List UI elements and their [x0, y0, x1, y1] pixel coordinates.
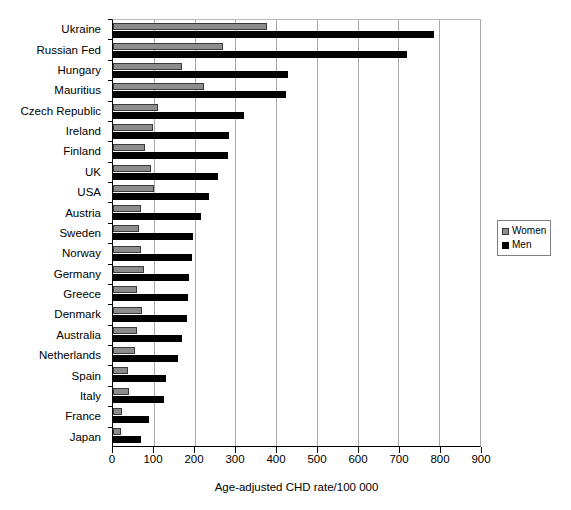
category-tick [106, 427, 112, 447]
bar-row [113, 263, 480, 283]
bar-row [113, 182, 480, 202]
category-tick [106, 39, 112, 59]
bar-men [113, 436, 141, 443]
category-tick [106, 243, 112, 263]
bar-row [113, 101, 480, 121]
bar-women [113, 347, 135, 354]
bar-women [113, 165, 151, 172]
bar-women [113, 367, 128, 374]
category-label: Russian Fed [0, 39, 106, 59]
category-tick [106, 162, 112, 182]
bar-men [113, 31, 434, 38]
bar-men [113, 91, 286, 98]
bar-row [113, 61, 480, 81]
bar-men [113, 51, 407, 58]
legend-label-women: Women [512, 225, 546, 237]
category-label: Greece [0, 284, 106, 304]
bar-row [113, 365, 480, 385]
bar-row [113, 385, 480, 405]
category-label: Mauritius [0, 80, 106, 100]
bar-row [113, 243, 480, 263]
category-tick [106, 345, 112, 365]
category-label: Finland [0, 141, 106, 161]
bar-men [113, 335, 182, 342]
bar-women [113, 144, 145, 151]
category-label: Ukraine [0, 19, 106, 39]
category-label: Ireland [0, 121, 106, 141]
x-tick-label: 800 [430, 452, 449, 466]
category-tick [106, 406, 112, 426]
bar-women [113, 225, 139, 232]
bar-women [113, 307, 142, 314]
category-tick [106, 386, 112, 406]
bar-men [113, 396, 164, 403]
bar-men [113, 274, 189, 281]
men-swatch-icon [502, 242, 509, 249]
bar-women [113, 428, 121, 435]
category-axis-labels: UkraineRussian FedHungaryMauritiusCzech … [0, 19, 106, 447]
category-label: Hungary [0, 60, 106, 80]
bar-women [113, 266, 144, 273]
bar-women [113, 388, 129, 395]
bar-men [113, 233, 193, 240]
category-label: Italy [0, 386, 106, 406]
category-tick [106, 101, 112, 121]
bar-women [113, 408, 122, 415]
bar-men [113, 254, 192, 261]
chart-legend: Women Men [497, 220, 551, 256]
plot-area [112, 19, 481, 447]
bar-women [113, 83, 204, 90]
bar-row [113, 142, 480, 162]
value-axis-labels: 0100200300400500600700800900 [0, 452, 571, 468]
bar-women [113, 23, 267, 30]
category-tick [106, 121, 112, 141]
category-label: Denmark [0, 304, 106, 324]
bar-women [113, 185, 154, 192]
x-tick-label: 600 [348, 452, 367, 466]
bar-men [113, 71, 288, 78]
bar-row [113, 40, 480, 60]
category-tick [106, 60, 112, 80]
category-label: Austria [0, 202, 106, 222]
category-label: Spain [0, 365, 106, 385]
category-tick [106, 19, 112, 39]
legend-entry-men: Men [502, 239, 546, 251]
category-tick [106, 223, 112, 243]
bar-men [113, 193, 209, 200]
bar-men [113, 416, 149, 423]
x-axis-title: Age-adjusted CHD rate/100 000 [112, 481, 481, 493]
bar-men [113, 294, 188, 301]
x-tick-label: 700 [389, 452, 408, 466]
bar-women [113, 327, 137, 334]
x-tick-label: 0 [109, 452, 115, 466]
bar-row [113, 20, 480, 40]
bar-men [113, 173, 218, 180]
category-axis-ticks [106, 19, 112, 447]
bar-row [113, 223, 480, 243]
bar-women [113, 124, 153, 131]
category-label: UK [0, 162, 106, 182]
x-tick-label: 900 [471, 452, 490, 466]
bar-men [113, 355, 178, 362]
bar-men [113, 152, 228, 159]
category-tick [106, 365, 112, 385]
bar-men [113, 112, 244, 119]
bar-row [113, 405, 480, 425]
women-swatch-icon [502, 228, 509, 235]
bar-row [113, 304, 480, 324]
gridline-900 [480, 20, 481, 446]
chd-rate-bar-chart: UkraineRussian FedHungaryMauritiusCzech … [0, 0, 571, 510]
bar-women [113, 246, 141, 253]
category-tick [106, 182, 112, 202]
category-tick [106, 202, 112, 222]
category-label: Sweden [0, 223, 106, 243]
bar-row [113, 426, 480, 446]
x-tick-label: 200 [184, 452, 203, 466]
bar-rows [113, 20, 480, 446]
bar-women [113, 286, 137, 293]
category-tick [106, 304, 112, 324]
bar-women [113, 43, 223, 50]
bar-row [113, 324, 480, 344]
bar-row [113, 162, 480, 182]
category-tick [106, 284, 112, 304]
